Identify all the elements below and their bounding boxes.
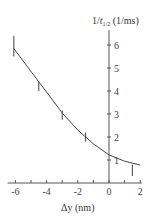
y-tick-label: 5 <box>114 63 119 74</box>
x-tick-label: 0 <box>107 186 112 197</box>
x-tick-label: 2 <box>138 186 143 197</box>
x-tick-label: -4 <box>42 186 50 197</box>
fit-curve <box>14 49 140 166</box>
x-tick-label: -2 <box>74 186 82 197</box>
y-tick-label: 3 <box>114 109 119 120</box>
y-axis-label: 1/t1/2 (1/ms) <box>92 15 139 27</box>
x-axis-label: Δy (nm) <box>61 202 94 214</box>
y-tick-label: 2 <box>114 132 119 143</box>
y-tick-label: 1 <box>114 155 119 166</box>
y-tick-label: 4 <box>114 86 119 97</box>
chart: -6-4-202Δy (nm)1234561/t1/2 (1/ms) <box>0 0 152 220</box>
x-tick-label: -6 <box>11 186 19 197</box>
y-tick-label: 6 <box>114 40 119 51</box>
